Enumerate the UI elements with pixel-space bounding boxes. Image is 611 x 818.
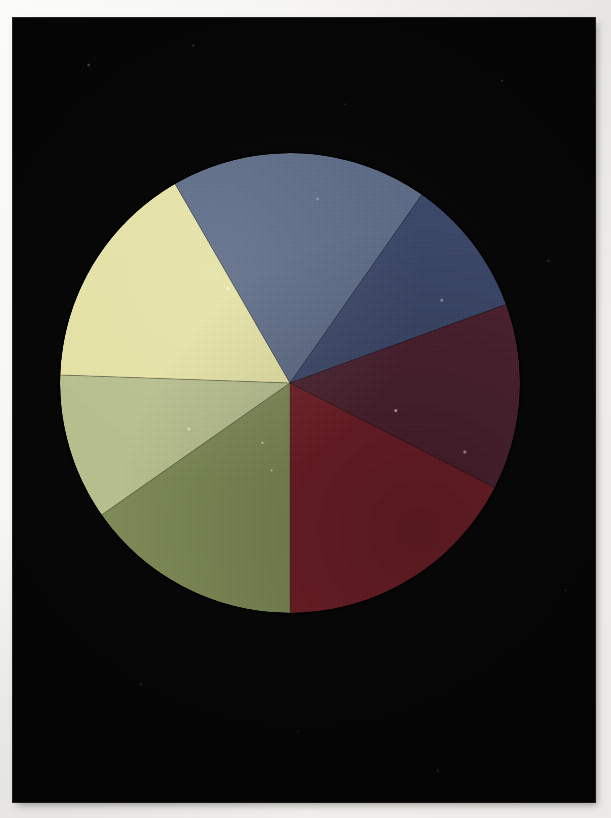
color-wheel-disc: [60, 153, 520, 613]
photograph-print: [13, 18, 595, 802]
color-wheel-disc-wrapper: [60, 153, 520, 613]
page-root: Photograph of a circular seven-segment c…: [0, 0, 611, 818]
color-wheel-sectors: [60, 153, 520, 613]
